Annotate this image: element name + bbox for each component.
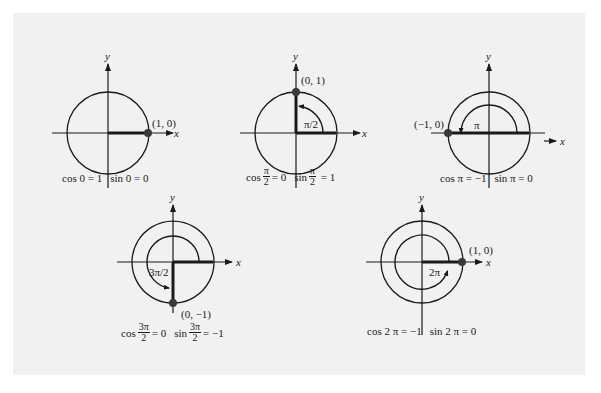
angle-label: 2π xyxy=(429,266,441,278)
denominator: 2 xyxy=(310,177,315,187)
caption-angle-pi: cos π = −1 sin π = 0 xyxy=(440,172,533,184)
sin-value: = 0 xyxy=(134,172,148,184)
sin-value: = 0 xyxy=(518,172,532,184)
sin-fn: sin xyxy=(294,171,307,183)
caption-angle-pi-over-2: cos π 2 = 0 sin π 2 = 1 xyxy=(246,166,335,187)
diagram-angle-pi xyxy=(431,64,556,188)
cos-fraction: π 2 xyxy=(263,166,270,187)
sin-fraction: π 2 xyxy=(309,166,316,187)
diagram-angle-3pi-over-2 xyxy=(117,205,232,313)
sin-arg: π xyxy=(510,172,516,184)
y-axis-label: y xyxy=(104,50,110,62)
sin-fn: sin xyxy=(494,172,507,184)
y-axis-label: y xyxy=(485,50,491,62)
point-label: (1, 0) xyxy=(152,117,176,130)
angle-label: π/2 xyxy=(304,118,318,130)
cos-fn: cos xyxy=(246,171,261,183)
cos-fn: cos xyxy=(121,327,136,339)
cos-fn: cos xyxy=(367,325,382,337)
cos-fn: cos xyxy=(62,172,77,184)
unit-circle-figure: y x (1, 0) y x (0, 1) π/2 y x (−1, 0) π xyxy=(0,0,601,393)
cos-fn: cos xyxy=(440,172,455,184)
y-axis-label: y xyxy=(292,50,298,62)
sin-fn: sin xyxy=(430,325,443,337)
denominator: 2 xyxy=(264,177,269,187)
angle-label: 3π/2 xyxy=(149,266,169,278)
cos-value: = 0 xyxy=(152,327,166,339)
x-axis-label: x xyxy=(361,127,367,139)
point-marker xyxy=(292,88,300,96)
point-marker xyxy=(458,258,466,266)
sin-value: = 0 xyxy=(462,325,476,337)
cos-arg: π xyxy=(457,172,463,184)
sin-fn: sin xyxy=(110,172,123,184)
diagram-angle-2pi xyxy=(366,205,482,335)
point-label: (0, −1) xyxy=(181,308,211,321)
cos-value: = −1 xyxy=(401,325,422,337)
y-axis-label: y xyxy=(169,191,175,203)
point-label: (1, 0) xyxy=(469,244,493,257)
cos-arg: 2 π xyxy=(384,325,398,337)
sin-value: = −1 xyxy=(203,327,224,339)
cos-fraction: 3π 2 xyxy=(138,322,150,343)
sin-arg: 0 xyxy=(126,172,132,184)
point-label: (0, 1) xyxy=(301,74,325,87)
sin-arg: 2 π xyxy=(445,325,459,337)
sin-value: = 1 xyxy=(321,171,335,183)
caption-angle-0: cos 0 = 1 sin 0 = 0 xyxy=(62,172,148,184)
point-label: (−1, 0) xyxy=(414,118,444,131)
sin-fn: sin xyxy=(174,327,187,339)
cos-arg: 0 xyxy=(79,172,85,184)
cos-value: = −1 xyxy=(466,172,487,184)
point-marker xyxy=(144,129,152,137)
x-axis-label: x xyxy=(235,256,241,268)
caption-angle-2pi: cos 2 π = −1 sin 2 π = 0 xyxy=(367,325,476,337)
cos-value: = 0 xyxy=(272,171,286,183)
caption-angle-3pi-over-2: cos 3π 2 = 0 sin 3π 2 = −1 xyxy=(121,322,224,343)
sin-fraction: 3π 2 xyxy=(189,322,201,343)
x-axis-label: x xyxy=(485,256,491,268)
angle-label: π xyxy=(474,119,480,131)
point-marker xyxy=(169,299,177,307)
y-axis-label: y xyxy=(418,191,424,203)
point-marker xyxy=(444,129,452,137)
denominator: 2 xyxy=(193,333,198,343)
x-axis-label: x xyxy=(559,135,565,147)
cos-value: = 1 xyxy=(88,172,102,184)
denominator: 2 xyxy=(141,333,146,343)
